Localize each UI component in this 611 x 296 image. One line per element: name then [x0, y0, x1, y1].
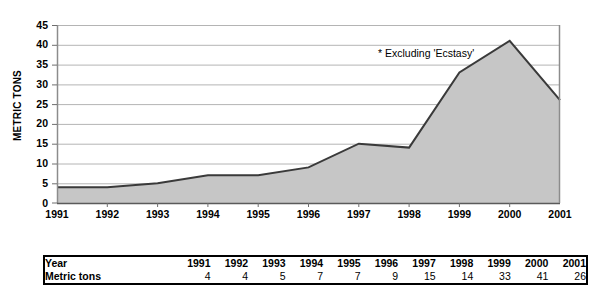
table-cell-metric-tons-2000: 41: [511, 270, 549, 283]
x-tick-label-2001: 2001: [537, 209, 583, 220]
table-cell-year-1991: 1991: [173, 257, 211, 270]
x-tick-label-1991: 1991: [34, 209, 80, 220]
chart-canvas: [0, 0, 611, 240]
table-cell-metric-tons-1999: 33: [473, 270, 511, 283]
table-cell-metric-tons-1997: 15: [398, 270, 436, 283]
y-tick-label-30: 30: [26, 79, 48, 89]
table-cell-year-1992: 1992: [211, 257, 249, 270]
y-tick-label-0: 0: [26, 198, 48, 208]
x-tick-label-1995: 1995: [235, 209, 281, 220]
table-cell-year-1998: 1998: [436, 257, 474, 270]
table-row-year: Year 19911992199319941995199619971998199…: [45, 257, 586, 270]
table-cell-metric-tons-1998: 14: [436, 270, 474, 283]
data-table: Year 19911992199319941995199619971998199…: [43, 255, 588, 285]
table-cell-metric-tons-1996: 9: [361, 270, 399, 283]
table-cell-metric-tons-1995: 7: [323, 270, 361, 283]
area-chart: METRIC TONS 051015202530354045 199119921…: [0, 0, 611, 240]
table-cell-metric-tons-2001: 26: [548, 270, 586, 283]
y-tick-label-40: 40: [26, 39, 48, 49]
table-cell-year-1995: 1995: [323, 257, 361, 270]
table-row-label-metric-tons: Metric tons: [45, 270, 173, 283]
x-tick-label-1996: 1996: [286, 209, 332, 220]
y-tick-label-15: 15: [26, 138, 48, 148]
table-cell-metric-tons-1991: 4: [173, 270, 211, 283]
y-tick-label-20: 20: [26, 118, 48, 128]
table-cell-year-1996: 1996: [361, 257, 399, 270]
table-cell-year-1999: 1999: [473, 257, 511, 270]
table-row-label-year: Year: [45, 257, 173, 270]
y-tick-label-25: 25: [26, 99, 48, 109]
x-tick-label-1999: 1999: [436, 209, 482, 220]
table-cell-year-1997: 1997: [398, 257, 436, 270]
table-cell-year-2001: 2001: [548, 257, 586, 270]
x-tick-label-1992: 1992: [84, 209, 130, 220]
table-row-metric-tons: Metric tons 4457791514334126: [45, 270, 586, 283]
chart-figure: METRIC TONS 051015202530354045 199119921…: [0, 0, 611, 296]
y-tick-marks: [52, 26, 57, 204]
y-tick-label-35: 35: [26, 59, 48, 69]
y-tick-label-5: 5: [26, 178, 48, 188]
y-axis-title: METRIC TONS: [12, 36, 23, 176]
x-tick-label-2000: 2000: [487, 209, 533, 220]
x-tick-label-1993: 1993: [135, 209, 181, 220]
table-cell-metric-tons-1992: 4: [211, 270, 249, 283]
x-tick-label-1994: 1994: [185, 209, 231, 220]
x-tick-label-1998: 1998: [386, 209, 432, 220]
y-tick-label-10: 10: [26, 158, 48, 168]
table-cell-year-1994: 1994: [286, 257, 324, 270]
table-cell-metric-tons-1993: 5: [248, 270, 286, 283]
table-cell-year-2000: 2000: [511, 257, 549, 270]
table-cell-metric-tons-1994: 7: [286, 270, 324, 283]
table-cell-year-1993: 1993: [248, 257, 286, 270]
y-tick-label-45: 45: [26, 20, 48, 30]
x-tick-label-1997: 1997: [336, 209, 382, 220]
chart-annotation-footnote: * Excluding 'Ecstasy': [378, 47, 474, 59]
